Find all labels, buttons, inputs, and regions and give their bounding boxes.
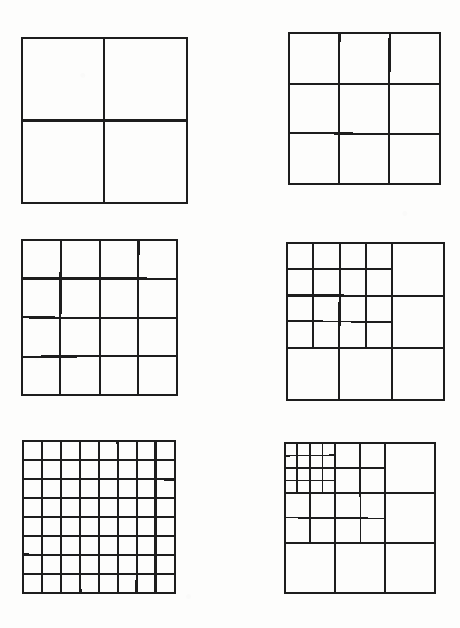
figure-square-4x4: 4 x 4 uniform grid [18, 236, 181, 399]
figure-square-2x2: 2 x 2 uniform grid [18, 34, 191, 207]
figure-square-3x3: 3 x 3 uniform grid [285, 29, 444, 188]
figure-square-3x3-recursive-depth-1: 3 x 3 grid with top-left 2x2 block subdi… [283, 239, 448, 404]
figure-square-3x3-recursive-depth-2: 3 x 3 grid, top-left 2x2 block subdivide… [281, 439, 439, 597]
figure-square-8x8: 8 x 8 uniform grid [19, 437, 179, 597]
worksheet-page: 2 x 2 uniform grid 3 x 3 uniform grid 4 … [0, 0, 460, 628]
